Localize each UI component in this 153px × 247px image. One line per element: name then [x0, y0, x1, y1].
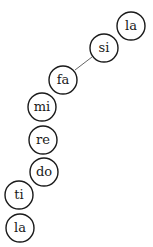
connector-si-fa	[75, 57, 92, 70]
node-la_bottom: la	[6, 214, 34, 242]
node-label: mi	[34, 99, 51, 114]
node-label: si	[99, 40, 110, 55]
node-do: do	[30, 158, 58, 186]
solfege-diagram: lasifamiredotila	[0, 0, 153, 247]
node-label: fa	[57, 72, 70, 87]
node-mi: mi	[28, 93, 56, 121]
node-ti: ti	[5, 181, 33, 209]
node-label: la	[14, 220, 26, 235]
node-re: re	[29, 126, 57, 154]
node-label: do	[36, 164, 52, 179]
node-label: ti	[14, 187, 23, 202]
node-fa: fa	[49, 66, 77, 94]
node-si: si	[90, 34, 118, 62]
node-label: la	[125, 18, 137, 33]
node-label: re	[36, 132, 50, 147]
node-la_top: la	[117, 12, 145, 40]
